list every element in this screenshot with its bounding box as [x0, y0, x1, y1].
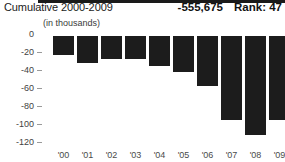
- y-axis-tick-mark: [37, 142, 42, 143]
- y-axis-tick-label: 0: [0, 30, 34, 39]
- y-axis-tick-label: -20: [0, 48, 34, 57]
- bar: [173, 36, 194, 72]
- y-axis-tick-label: -120: [0, 138, 34, 147]
- chart-container: Cumulative 2000-2009 -555,675 Rank: 47 (…: [0, 0, 285, 162]
- bar: [221, 36, 242, 120]
- bar: [77, 36, 98, 63]
- x-axis-tick-label: '01: [74, 150, 101, 160]
- bar: [125, 36, 146, 59]
- y-axis-tick-label: -40: [0, 66, 34, 75]
- y-axis-tick-mark: [37, 124, 42, 125]
- x-axis-tick-label: '07: [218, 150, 245, 160]
- y-axis-tick-label: -80: [0, 102, 34, 111]
- plot-area: 0-20-40-60-80-100-120'00'01'02'03'04'05'…: [0, 0, 285, 162]
- y-axis-tick-mark: [37, 88, 42, 89]
- bar: [101, 36, 122, 59]
- x-axis-tick-label: '02: [98, 150, 125, 160]
- x-axis-tick-label: '00: [50, 150, 77, 160]
- x-axis-tick-label: '06: [194, 150, 221, 160]
- y-axis-tick-mark: [37, 70, 42, 71]
- zero-baseline: [38, 0, 285, 3]
- bar: [197, 36, 218, 86]
- y-axis-tick-mark: [37, 52, 42, 53]
- y-axis-tick-mark: [37, 106, 42, 107]
- x-axis-tick-label: '09: [266, 150, 285, 160]
- x-axis-tick-label: '08: [242, 150, 269, 160]
- x-axis-tick-label: '05: [170, 150, 197, 160]
- x-axis-tick-label: '04: [146, 150, 173, 160]
- bar: [245, 36, 266, 135]
- x-axis-tick-label: '03: [122, 150, 149, 160]
- bar: [53, 36, 74, 55]
- bar: [149, 36, 170, 66]
- bar: [269, 36, 285, 120]
- y-axis-tick-label: -100: [0, 120, 34, 129]
- y-axis-tick-label: -60: [0, 84, 34, 93]
